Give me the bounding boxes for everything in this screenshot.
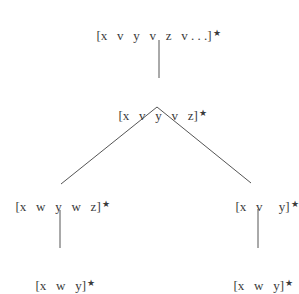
node-left: [x w y w z]★ bbox=[9, 180, 110, 215]
star-icon: ★ bbox=[213, 28, 221, 38]
node-right: [x v y]★ bbox=[229, 180, 299, 215]
node-root-label: [x v y v z v . . .] bbox=[97, 28, 212, 43]
node-left-label: [x w y w z] bbox=[16, 199, 101, 214]
node-right-child-label: [x w y] bbox=[234, 278, 285, 293]
node-level1: [x v y v z]★ bbox=[112, 89, 207, 124]
node-left-child-label: [x w y] bbox=[36, 278, 87, 293]
star-icon: ★ bbox=[291, 199, 299, 209]
node-right-child: [x w y]★ bbox=[227, 259, 293, 294]
star-icon: ★ bbox=[102, 199, 110, 209]
node-root: [x v y v z v . . .]★ bbox=[90, 9, 221, 44]
star-icon: ★ bbox=[199, 108, 207, 118]
star-icon: ★ bbox=[285, 278, 293, 288]
node-left-child: [x w y]★ bbox=[29, 259, 95, 294]
node-level1-label: [x v y v z] bbox=[119, 108, 198, 123]
star-icon: ★ bbox=[87, 278, 95, 288]
node-right-label: [x v y] bbox=[236, 199, 290, 214]
